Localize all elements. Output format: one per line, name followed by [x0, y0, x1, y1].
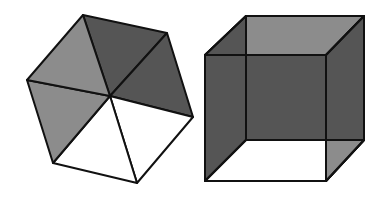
cube-figure [205, 16, 364, 181]
hexagon-figure [27, 15, 193, 183]
optical-illusion-figure [0, 0, 387, 199]
cube-back-face [246, 55, 326, 140]
